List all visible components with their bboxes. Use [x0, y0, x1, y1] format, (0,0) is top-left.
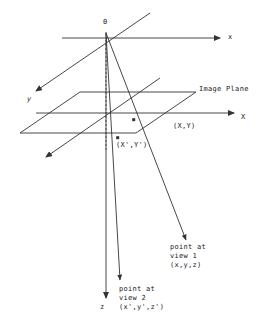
view1-line-2: view 1 — [170, 252, 206, 261]
diagram-canvas — [0, 0, 261, 324]
axis-x-label: x — [228, 33, 233, 42]
origin-label: 0 — [103, 18, 108, 27]
view2-line-1: point at — [119, 285, 164, 294]
axis-z-label: z — [100, 303, 105, 312]
view1-line-3: (x,y,z) — [170, 261, 206, 270]
image-point-XY-marker — [132, 118, 135, 121]
image-point-XpYp-label: (X',Y') — [116, 141, 148, 150]
image-plane-label: Image Plane — [199, 85, 249, 94]
image-plane-outline — [20, 92, 196, 133]
view2-line-3: (x',y',z') — [119, 303, 164, 312]
projection-ray-view2 — [106, 33, 120, 280]
view1-line-1: point at — [170, 243, 206, 252]
image-point-XY-label: (X,Y) — [173, 122, 196, 131]
world-point-view1-caption: point at view 1 (x,y,z) — [170, 243, 206, 270]
projection-diagram: 0 x y z X Image Plane (X,Y) (X',Y') poin… — [0, 0, 261, 324]
image-point-XpYp-marker — [116, 136, 119, 139]
axis-X-upper-label: X — [241, 113, 246, 122]
axis-y-line — [36, 13, 150, 91]
axis-y-label: y — [27, 95, 32, 104]
world-point-view2-caption: point at view 2 (x',y',z') — [119, 285, 164, 312]
view2-line-2: view 2 — [119, 294, 164, 303]
